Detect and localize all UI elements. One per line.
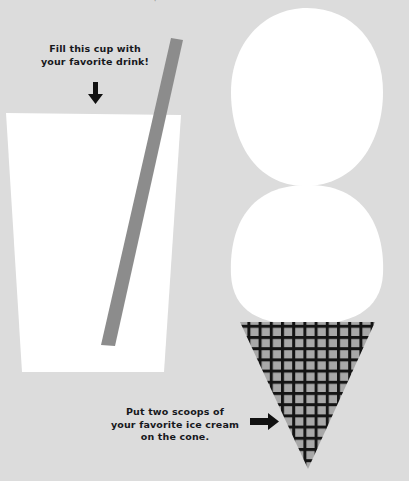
waffle-cone-body (225, 316, 409, 481)
arrow-right-icon (250, 411, 280, 432)
instruction-cup-text: Fill this cup with your favorite drink! (14, 43, 176, 68)
ice-cream-scoop-lower (231, 185, 383, 325)
waffle-grid-fill (225, 316, 409, 481)
top-cropped-mark: ✦ (143, 0, 167, 3)
instruction-cone-text: Put two scoops of your favorite ice crea… (102, 406, 248, 444)
straw-shape-svg (90, 30, 185, 355)
ice-cream-cone (225, 0, 409, 481)
ice-cream-shape-svg (225, 0, 409, 481)
ice-cream-scoop-upper (231, 8, 383, 186)
drinking-straw (90, 30, 185, 355)
craft-template-page: ✦ (0, 0, 409, 481)
straw-body (101, 38, 183, 346)
arrow-down-icon (87, 82, 104, 104)
